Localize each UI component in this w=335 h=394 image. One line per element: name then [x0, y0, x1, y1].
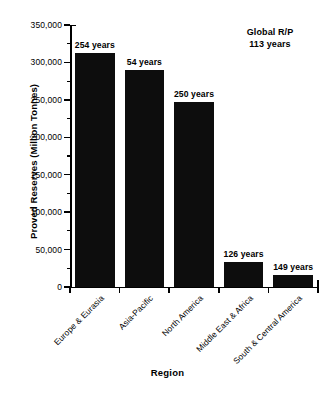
y-axis-tick-label: 50,000 — [35, 245, 62, 255]
x-axis-tick — [218, 287, 220, 293]
x-axis-tick — [119, 287, 121, 293]
global-rp-value: 113 years — [215, 39, 325, 51]
plot-area: 254 years54 years250 years126 years149 y… — [70, 25, 318, 287]
bar-value-label: 149 years — [273, 262, 313, 272]
bar-chart: 050,000100,000150,000200,000250,000300,0… — [0, 0, 335, 394]
x-axis-category-label: Asia-Pacific — [117, 291, 158, 332]
y-axis-tick-label: 350,000 — [31, 20, 62, 30]
bar — [224, 262, 264, 287]
x-axis-category-label: North America — [160, 291, 207, 338]
x-axis-tick — [168, 287, 170, 293]
x-axis-tick — [268, 287, 270, 293]
x-axis-category-label: Europe & Eurasia — [52, 291, 108, 347]
global-rp-title: Global R/P — [215, 27, 325, 39]
bar — [75, 53, 115, 287]
x-axis-title: Region — [0, 367, 335, 378]
bar — [174, 102, 214, 287]
x-axis-tick — [317, 287, 319, 293]
bar — [273, 275, 313, 287]
bar-value-label: 54 years — [127, 57, 162, 67]
y-axis-tick-label: 0 — [57, 282, 62, 292]
x-axis-category-label-wrapper: North America — [160, 291, 207, 338]
bar-value-label: 250 years — [174, 89, 214, 99]
x-axis-category-label-wrapper: Europe & Eurasia — [52, 291, 108, 347]
bar-value-label: 126 years — [224, 249, 264, 259]
y-axis-title: Proved Reserves (Million Tonnes) — [28, 67, 39, 257]
x-axis-tick — [69, 287, 71, 293]
x-axis-category-label-wrapper: Asia-Pacific — [117, 291, 158, 332]
global-rp-annotation: Global R/P 113 years — [215, 27, 325, 50]
bar — [125, 70, 165, 287]
bar-value-label: 254 years — [75, 40, 115, 50]
